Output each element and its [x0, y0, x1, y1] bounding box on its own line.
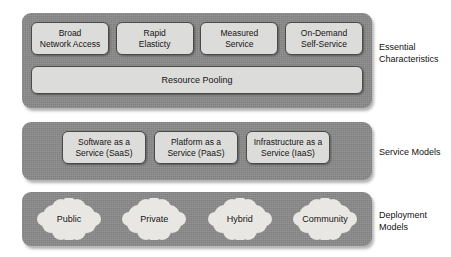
side-label-service-models: Service Models — [379, 146, 451, 158]
side-label-essential-characteristics: Essential Characteristics — [379, 41, 451, 65]
service-models-chip-row: Software as a Service (SaaS) Platform as… — [62, 131, 330, 164]
chip-text: Infrastructure as a Service (IaaS) — [254, 137, 323, 157]
chip-text: Rapid Elasticty — [139, 28, 171, 48]
chip-text: Software as a Service (SaaS) — [75, 137, 132, 157]
chip-resource-pooling: Resource Pooling — [31, 66, 363, 94]
chip-line1: Platform as a — [171, 137, 221, 147]
chip-line2: Network Access — [40, 39, 100, 49]
cloud-label: Hybrid — [227, 214, 253, 224]
cloud-label: Private — [140, 214, 168, 224]
chip-line2: Service — [225, 39, 253, 49]
chip-software-as-a-service: Software as a Service (SaaS) — [62, 131, 146, 164]
chip-line1: Measured — [220, 28, 258, 38]
chip-broad-network-access: Broad Network Access — [31, 22, 109, 55]
cloud-private: Private — [116, 198, 192, 240]
chip-text: Platform as a Service (PaaS) — [167, 137, 224, 157]
chip-text: On-Demand Self-Service — [301, 28, 347, 48]
chip-line2: Service (PaaS) — [167, 148, 224, 158]
side-label-line2: Models — [379, 221, 451, 233]
cloud-label: Community — [302, 214, 348, 224]
resource-pooling-row: Resource Pooling — [31, 66, 363, 94]
chip-line2: Self-Service — [301, 39, 347, 49]
chip-line1: Software as a — [78, 137, 130, 147]
chip-rapid-elasticity: Rapid Elasticty — [116, 22, 194, 55]
chip-line2: Service (IaaS) — [261, 148, 315, 158]
chip-line1: On-Demand — [301, 28, 347, 38]
side-label-line1: Service Models — [379, 146, 451, 158]
chip-text: Broad Network Access — [40, 28, 100, 48]
chip-line2: Service (SaaS) — [75, 148, 132, 158]
chip-text: Measured Service — [220, 28, 258, 48]
chip-on-demand-self-service: On-Demand Self-Service — [285, 22, 363, 55]
cloud-hybrid: Hybrid — [202, 198, 278, 240]
cloud-community: Community — [287, 198, 363, 240]
chip-line1: Infrastructure as a — [254, 137, 323, 147]
chip-line1: Broad — [59, 28, 82, 38]
side-label-line1: Deployment — [379, 209, 451, 221]
deployment-models-cloud-row: Public Private — [31, 198, 363, 240]
chip-platform-as-a-service: Platform as a Service (PaaS) — [154, 131, 238, 164]
chip-infrastructure-as-a-service: Infrastructure as a Service (IaaS) — [246, 131, 330, 164]
cloud-label: Public — [57, 214, 82, 224]
side-label-line1: Essential — [379, 41, 451, 53]
essential-characteristics-chip-row: Broad Network Access Rapid Elasticty Mea… — [31, 22, 363, 55]
chip-line2: Elasticty — [139, 39, 171, 49]
chip-measured-service: Measured Service — [200, 22, 278, 55]
side-label-line2: Characteristics — [379, 53, 451, 65]
side-label-deployment-models: Deployment Models — [379, 209, 451, 233]
chip-line1: Rapid — [144, 28, 166, 38]
chip-label: Resource Pooling — [161, 75, 232, 86]
cloud-public: Public — [31, 198, 107, 240]
